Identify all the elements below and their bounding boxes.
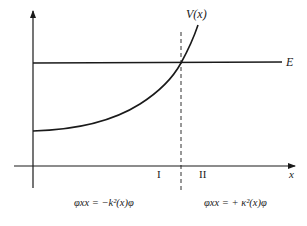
energy-label: E [285, 55, 294, 69]
energy-line [33, 62, 282, 63]
region-2-label: II [199, 168, 207, 180]
x-axis-label: x [288, 168, 294, 180]
region-1-label: I [157, 168, 161, 180]
potential-diagram: V(x) E x I II φxx = −k²(x)φ φxx = + κ²(x… [0, 0, 307, 226]
potential-label: V(x) [186, 7, 207, 21]
region-2-equation: φxx = + κ²(x)φ [204, 197, 267, 209]
region-1-equation: φxx = −k²(x)φ [74, 197, 134, 209]
potential-curve [33, 25, 198, 131]
